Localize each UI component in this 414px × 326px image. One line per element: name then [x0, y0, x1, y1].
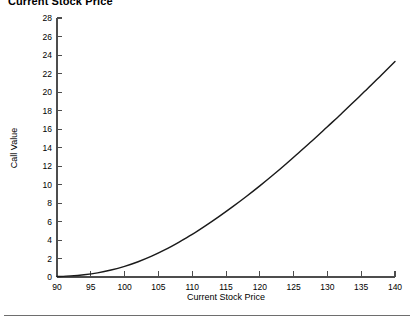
y-tick-label: 6	[47, 217, 52, 227]
y-tick-label-group: 0246810121416182022242628	[43, 13, 53, 282]
x-tick-label: 100	[118, 282, 132, 292]
axes-group	[57, 18, 395, 277]
y-axis-title: Call Value	[9, 128, 19, 168]
x-tick-label: 95	[86, 282, 96, 292]
y-tick-label: 28	[43, 13, 53, 23]
x-tick-group	[57, 271, 395, 277]
y-tick-label: 16	[43, 124, 53, 134]
chart-figure: Current Stock Price 02468101214161820222…	[0, 0, 414, 326]
x-tick-label-group: 9095100105110115120125130135140	[52, 282, 402, 292]
y-tick-label: 2	[47, 254, 52, 264]
y-tick-label: 12	[43, 161, 53, 171]
x-axis-title: Current Stock Price	[187, 292, 265, 302]
x-tick-label: 140	[388, 282, 402, 292]
y-tick-label: 8	[47, 198, 52, 208]
y-tick-label: 18	[43, 106, 53, 116]
y-tick-label: 22	[43, 69, 53, 79]
y-tick-label: 0	[47, 272, 52, 282]
y-tick-label: 24	[43, 50, 53, 60]
footer-divider	[4, 315, 410, 316]
y-tick-label: 20	[43, 87, 53, 97]
y-tick-group	[57, 18, 62, 277]
y-tick-label: 14	[43, 143, 53, 153]
call-value-curve	[57, 61, 395, 276]
x-tick-label: 135	[354, 282, 368, 292]
y-tick-label: 26	[43, 32, 53, 42]
x-tick-label: 125	[287, 282, 301, 292]
y-tick-label: 4	[47, 235, 52, 245]
x-tick-label: 105	[151, 282, 165, 292]
x-tick-label: 90	[52, 282, 62, 292]
y-tick-label: 10	[43, 180, 53, 190]
x-tick-label: 115	[219, 282, 233, 292]
x-tick-label: 120	[253, 282, 267, 292]
plot-area: 0246810121416182022242628 90951001051101…	[0, 0, 414, 326]
x-tick-label: 110	[185, 282, 199, 292]
x-tick-label: 130	[320, 282, 334, 292]
